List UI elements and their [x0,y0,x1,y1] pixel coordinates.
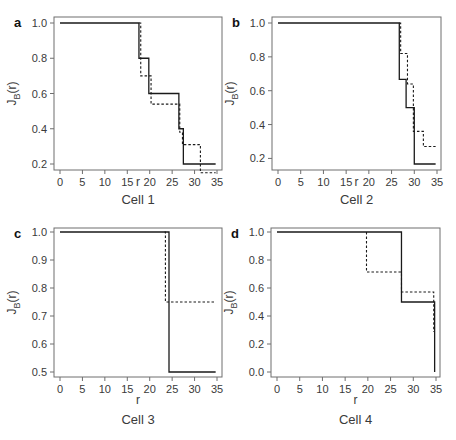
x-tick-label: 5 [297,383,303,395]
y-tick-label: 0.7 [32,310,47,322]
x-tick-label: 35 [211,176,223,188]
panel-b: b0.20.40.60.81.005101520253035rJB(r)Cell… [223,15,443,207]
series-solid-line [60,232,216,372]
y-tick-label: 0.2 [249,338,264,350]
panel-letter: b [232,15,240,30]
x-tick-label: 20 [362,383,374,395]
x-tick-label: 25 [166,176,178,188]
y-tick-label: 0.0 [249,366,264,378]
x-axis-title: r [354,393,358,407]
y-tick-label: 0.8 [250,51,265,63]
y-tick-label: 0.2 [250,152,265,164]
x-axis-title: r [136,175,140,189]
panel-letter: c [14,226,21,241]
x-tick-label: 30 [408,176,420,188]
y-tick-label: 0.8 [249,254,264,266]
x-tick-label: 15 [121,176,133,188]
x-tick-label: 10 [316,383,328,395]
y-axis-title: JB(r) [223,81,240,105]
series-dashed-line [366,232,433,332]
x-tick-label: 5 [298,176,304,188]
x-tick-label: 15 [121,383,133,395]
y-tick-label: 0.6 [32,338,47,350]
x-tick-label: 35 [431,176,443,188]
panel-caption: Cell 1 [121,192,154,207]
series-dashed-line [399,23,435,147]
x-tick-label: 25 [385,176,397,188]
y-axis-title: JB(r) [5,81,22,105]
x-tick-label: 20 [144,383,156,395]
panel-d: d0.00.20.40.60.81.005101520253035rJB(r)C… [222,226,442,427]
x-tick-label: 10 [317,176,329,188]
y-tick-label: 1.0 [249,226,264,238]
panel-letter: a [14,15,22,30]
x-tick-label: 20 [144,176,156,188]
y-tick-label: 0.2 [32,158,47,170]
y-tick-label: 0.9 [32,254,47,266]
y-tick-label: 0.6 [249,282,264,294]
figure: a0.20.40.60.81.005101520253035rJB(r)Cell… [0,0,456,440]
x-tick-label: 30 [188,383,200,395]
y-tick-label: 1.0 [32,17,47,29]
y-tick-label: 0.6 [250,85,265,97]
plot-frame [272,17,441,170]
panel-caption: Cell 3 [121,412,154,427]
panel-letter: d [231,226,239,241]
x-axis-title: r [355,175,359,189]
series-dashed-line [139,23,216,173]
plot-frame [54,17,222,170]
y-axis-title: JB(r) [5,290,22,314]
x-tick-label: 30 [188,176,200,188]
x-tick-label: 35 [430,383,442,395]
y-tick-label: 1.0 [250,17,265,29]
series-solid-line [278,23,436,164]
x-tick-label: 0 [275,176,281,188]
x-tick-label: 10 [99,383,111,395]
x-tick-label: 5 [79,176,85,188]
y-tick-label: 0.6 [32,88,47,100]
panel-a: a0.20.40.60.81.005101520253035rJB(r)Cell… [5,15,223,207]
x-tick-label: 20 [363,176,375,188]
x-tick-label: 10 [99,176,111,188]
panel-caption: Cell 4 [339,412,372,427]
x-tick-label: 15 [340,176,352,188]
series-solid-line [60,23,216,164]
x-tick-label: 25 [384,383,396,395]
y-tick-label: 0.8 [32,52,47,64]
x-tick-label: 35 [211,383,223,395]
y-axis-title: JB(r) [222,290,239,314]
y-tick-label: 0.4 [32,123,47,135]
y-tick-label: 0.4 [250,119,265,131]
panel-c: c0.50.60.70.80.91.005101520253035rJB(r)C… [5,226,223,427]
x-tick-label: 0 [57,176,63,188]
panel-caption: Cell 2 [340,192,373,207]
plot-frame [54,228,222,377]
series-dashed-line [165,232,216,302]
y-tick-label: 1.0 [32,226,47,238]
y-tick-label: 0.4 [249,310,264,322]
x-tick-label: 15 [339,383,351,395]
x-tick-label: 5 [79,383,85,395]
y-tick-label: 0.5 [32,366,47,378]
x-tick-label: 30 [407,383,419,395]
x-tick-label: 0 [57,383,63,395]
x-axis-title: r [136,393,140,407]
series-solid-line [277,232,435,372]
y-tick-label: 0.8 [32,282,47,294]
x-tick-label: 0 [274,383,280,395]
x-tick-label: 25 [166,383,178,395]
